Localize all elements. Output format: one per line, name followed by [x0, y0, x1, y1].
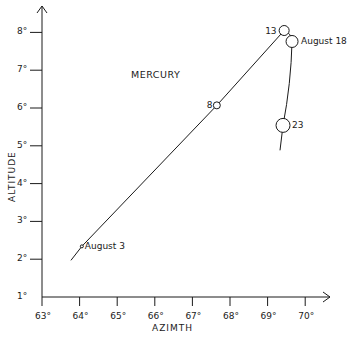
- y-tick-label: 5°: [17, 140, 27, 150]
- x-tick-label: 69°: [261, 311, 277, 321]
- axes: [37, 6, 330, 306]
- date-label: August 18: [301, 36, 347, 46]
- x-axis-ticks: 63°64°65°66°67°68°69°70°: [35, 297, 314, 321]
- mercury-altitude-azimuth-chart: 63°64°65°66°67°68°69°70° 1°2°3°4°5°6°7°8…: [0, 0, 348, 340]
- date-markers: August 3813August 1823: [80, 26, 347, 252]
- y-tick-label: 8°: [17, 26, 27, 36]
- y-tick-label: 2°: [17, 253, 27, 263]
- date-marker-circle: [286, 35, 298, 47]
- x-tick-label: 64°: [73, 311, 89, 321]
- date-label: 23: [292, 120, 303, 130]
- date-marker-circle: [213, 102, 220, 109]
- mercury-path-series: [71, 31, 292, 261]
- y-tick-label: 7°: [17, 64, 27, 74]
- date-label: August 3: [85, 241, 125, 251]
- y-tick-label: 4°: [17, 178, 27, 188]
- x-tick-label: 70°: [298, 311, 314, 321]
- y-tick-label: 3°: [17, 215, 27, 225]
- x-axis-title: AZIMTH: [152, 323, 193, 333]
- date-marker-circle: [276, 118, 290, 132]
- date-label: 8: [207, 100, 213, 110]
- y-axis-title: ALTITUDE: [7, 151, 17, 202]
- x-tick-label: 63°: [35, 311, 51, 321]
- date-label: 13: [265, 26, 276, 36]
- y-tick-label: 1°: [17, 291, 27, 301]
- chart-title: MERCURY: [131, 69, 180, 80]
- date-marker-circle: [80, 245, 83, 248]
- x-tick-label: 67°: [185, 311, 201, 321]
- mercury-path-line: [71, 31, 292, 261]
- date-marker-circle: [279, 26, 289, 36]
- x-tick-label: 68°: [223, 311, 239, 321]
- y-tick-label: 6°: [17, 102, 27, 112]
- x-tick-label: 65°: [110, 311, 126, 321]
- x-tick-label: 66°: [148, 311, 164, 321]
- y-axis-ticks: 1°2°3°4°5°6°7°8°: [17, 26, 42, 301]
